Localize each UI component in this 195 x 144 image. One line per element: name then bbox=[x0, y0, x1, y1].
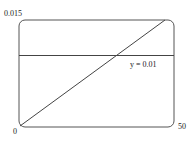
line-annotation: y = 0.01 bbox=[130, 61, 157, 69]
x-max-tick-label: 50 bbox=[178, 123, 186, 131]
y-max-tick-label: 0.015 bbox=[4, 10, 22, 18]
chart-plot bbox=[0, 0, 195, 144]
origin-tick-label: 0 bbox=[13, 128, 17, 136]
diagonal-curve bbox=[20, 20, 165, 126]
plot-frame bbox=[19, 20, 174, 127]
